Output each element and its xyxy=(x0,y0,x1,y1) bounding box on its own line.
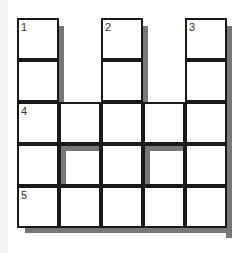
grid-cell-r4-c1[interactable] xyxy=(59,186,101,228)
grid-cell-r3-c3[interactable] xyxy=(143,144,185,186)
grid-cell-r0-c0[interactable]: 1 xyxy=(17,18,59,60)
clue-number: 5 xyxy=(21,190,27,201)
grid-cell-r0-c4[interactable]: 3 xyxy=(185,18,227,60)
crossword-panel: 1 2 3 4 5 xyxy=(8,0,237,253)
grid-cell-r2-c4[interactable] xyxy=(185,102,227,144)
grid-cell-r1-c2[interactable] xyxy=(101,60,143,102)
clue-number: 1 xyxy=(21,22,27,33)
clue-number: 4 xyxy=(21,106,27,117)
grid-cell-r3-c4[interactable] xyxy=(185,144,227,186)
grid-cell-r4-c0[interactable]: 5 xyxy=(17,186,59,228)
grid-cell-r3-c1[interactable] xyxy=(59,144,101,186)
grid-cell-r2-c3[interactable] xyxy=(143,102,185,144)
grid-cell-r1-c0[interactable] xyxy=(17,60,59,102)
cell-shadow xyxy=(25,228,231,233)
grid-cell-r3-c0[interactable] xyxy=(17,144,59,186)
grid-cell-r0-c2[interactable]: 2 xyxy=(101,18,143,60)
clue-number: 3 xyxy=(189,22,195,33)
grid-cell-r4-c2[interactable] xyxy=(101,186,143,228)
grid-cell-r2-c1[interactable] xyxy=(59,102,101,144)
grid-cell-r4-c3[interactable] xyxy=(143,186,185,228)
grid-cell-r2-c0[interactable]: 4 xyxy=(17,102,59,144)
grid-cell-r4-c4[interactable] xyxy=(185,186,227,228)
grid-cell-r3-c2[interactable] xyxy=(101,144,143,186)
grid-cell-r1-c4[interactable] xyxy=(185,60,227,102)
clue-number: 2 xyxy=(105,22,111,33)
grid-cell-r2-c2[interactable] xyxy=(101,102,143,144)
